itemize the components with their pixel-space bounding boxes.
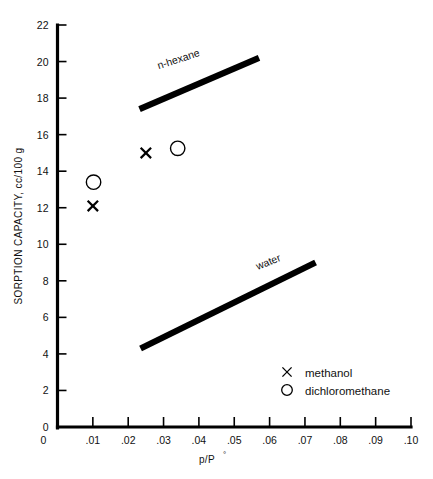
trend-line-label-water: water — [253, 251, 283, 272]
x-tick-label: .01 — [86, 434, 101, 446]
data-point-dichloromethane — [170, 141, 184, 155]
legend-marker-dichloromethane — [282, 385, 293, 396]
trend-line-water — [141, 263, 316, 349]
x-tick-label: .09 — [368, 434, 383, 446]
trend-lines — [140, 58, 316, 349]
x-tick-label: .04 — [192, 434, 207, 446]
y-tick-label: 16 — [37, 129, 49, 141]
legend-label-methanol: methanol — [305, 367, 352, 379]
trend-line-label-n-hexane: n-hexane — [156, 46, 202, 71]
x-tick-label: .05 — [227, 434, 242, 446]
y-tick-label: 18 — [37, 92, 49, 104]
x-axis-title-text: p/P — [199, 454, 215, 465]
x-tick-label: .10 — [404, 434, 419, 446]
x-axis-tick-labels: 0.01.02.03.04.05.06.07.08.09.10 — [41, 434, 419, 446]
y-tick-label: 6 — [43, 311, 49, 323]
data-point-dichloromethane — [86, 175, 100, 189]
chart-page: 0246810121416182022 0.01.02.03.04.05.06.… — [0, 0, 433, 479]
chart-legend: methanoldichloromethane — [282, 367, 390, 397]
y-tick-label: 22 — [37, 19, 49, 31]
trend-line-labels: n-hexanewater — [156, 46, 283, 272]
sorption-capacity-chart: 0246810121416182022 0.01.02.03.04.05.06.… — [0, 0, 433, 479]
y-tick-label: 10 — [37, 238, 49, 250]
x-tick-label: .02 — [121, 434, 136, 446]
y-axis-tick-labels: 0246810121416182022 — [37, 19, 49, 433]
y-tick-label: 8 — [43, 275, 49, 287]
x-axis-title-degree: ° — [223, 450, 227, 459]
y-axis-title: SORPTION CAPACITY, cc/100 g — [13, 147, 24, 304]
axis-lines — [58, 25, 412, 428]
x-tick-label: .06 — [262, 434, 277, 446]
legend-label-dichloromethane: dichloromethane — [305, 385, 390, 397]
data-point-methanol — [88, 201, 98, 211]
data-point-markers — [86, 141, 185, 211]
data-point-methanol — [141, 148, 151, 158]
x-tick-label: 0 — [41, 434, 47, 446]
x-tick-label: .08 — [333, 434, 348, 446]
x-axis-title: p/P ° — [199, 450, 227, 465]
y-tick-label: 14 — [37, 165, 49, 177]
y-tick-label: 0 — [43, 421, 49, 433]
y-tick-label: 2 — [43, 384, 49, 396]
x-tick-label: .07 — [298, 434, 313, 446]
y-tick-label: 20 — [37, 56, 49, 68]
y-tick-label: 12 — [37, 202, 49, 214]
x-tick-label: .03 — [156, 434, 171, 446]
y-tick-label: 4 — [43, 348, 49, 360]
